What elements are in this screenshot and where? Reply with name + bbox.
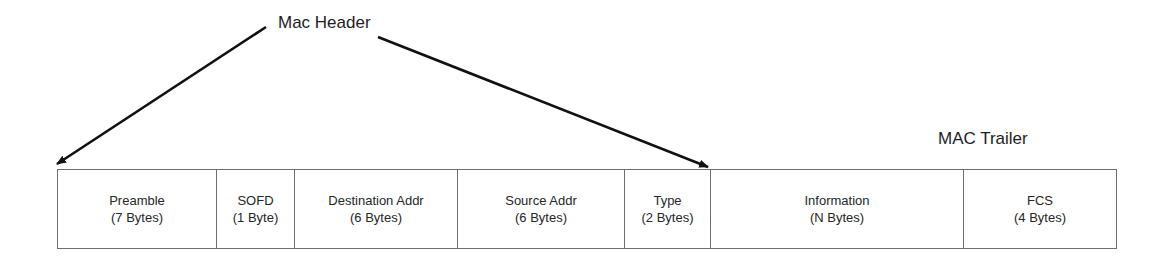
field-size: (7 Bytes) bbox=[111, 209, 163, 226]
field-size: (6 Bytes) bbox=[515, 209, 567, 226]
field-size: (N Bytes) bbox=[810, 209, 864, 226]
field-information: Information (N Bytes) bbox=[711, 170, 964, 248]
field-fcs: FCS (4 Bytes) bbox=[964, 170, 1116, 248]
arrow-to-type-end bbox=[378, 37, 708, 167]
field-source-addr: Source Addr (6 Bytes) bbox=[458, 170, 625, 248]
field-sofd: SOFD (1 Byte) bbox=[217, 170, 295, 248]
ethernet-frame: Preamble (7 Bytes) SOFD (1 Byte) Destina… bbox=[57, 169, 1117, 249]
field-size: (6 Bytes) bbox=[350, 209, 402, 226]
field-name: Type bbox=[653, 192, 681, 209]
arrow-to-preamble bbox=[57, 27, 266, 164]
field-size: (1 Byte) bbox=[233, 209, 279, 226]
field-destination-addr: Destination Addr (6 Bytes) bbox=[295, 170, 458, 248]
field-preamble: Preamble (7 Bytes) bbox=[58, 170, 217, 248]
field-type: Type (2 Bytes) bbox=[625, 170, 711, 248]
field-name: Destination Addr bbox=[328, 192, 423, 209]
field-name: Source Addr bbox=[505, 192, 577, 209]
field-name: Preamble bbox=[109, 192, 165, 209]
field-size: (2 Bytes) bbox=[641, 209, 693, 226]
field-name: SOFD bbox=[237, 192, 273, 209]
field-size: (4 Bytes) bbox=[1014, 209, 1066, 226]
field-name: Information bbox=[804, 192, 869, 209]
field-name: FCS bbox=[1027, 192, 1053, 209]
